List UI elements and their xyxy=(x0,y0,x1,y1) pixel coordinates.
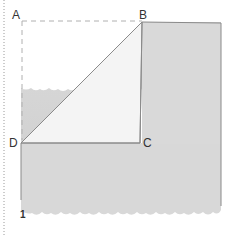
point-label-c: C xyxy=(143,137,152,149)
step-number: 1 xyxy=(20,210,26,220)
point-label-b: B xyxy=(139,9,147,21)
folded-triangle-bdc xyxy=(21,22,142,143)
right-paper-column xyxy=(142,22,221,144)
point-label-d: D xyxy=(9,137,18,149)
diagram-canvas xyxy=(0,0,227,236)
point-label-a: A xyxy=(12,9,20,21)
lower-paper-region xyxy=(21,143,221,215)
folding-diagram: A B C D 1 xyxy=(0,0,227,236)
